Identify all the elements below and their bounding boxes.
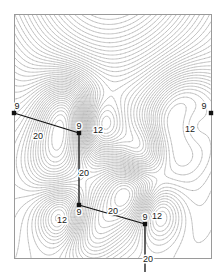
edge-label-1: 20 [79, 168, 89, 178]
node-label-2: 9 [76, 207, 81, 217]
node-marker-4[interactable] [209, 111, 213, 115]
node-label-3: 9 [142, 212, 147, 222]
contour-figure: 1212121212121212202020202020202099999999… [0, 0, 224, 274]
edge-label-2: 20 [108, 206, 118, 216]
region-label-1: 12 [185, 124, 195, 134]
edge-label-3: 20 [143, 254, 153, 264]
node-label-4: 9 [201, 101, 206, 111]
node-label-1: 9 [76, 121, 81, 131]
region-label-3: 12 [152, 211, 162, 221]
region-label-2: 12 [57, 215, 67, 225]
contour-plot-svg: 1212121212121212202020202020202099999999… [0, 0, 224, 274]
node-label-0: 9 [14, 101, 19, 111]
node-marker-3[interactable] [143, 222, 147, 226]
edge-label-0: 20 [33, 131, 43, 141]
node-marker-0[interactable] [12, 111, 16, 115]
region-label-0: 12 [93, 125, 103, 135]
node-marker-1[interactable] [77, 131, 81, 135]
